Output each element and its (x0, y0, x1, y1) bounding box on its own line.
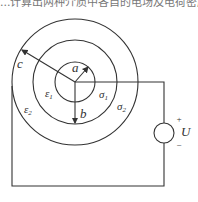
label-minus: − (176, 140, 182, 150)
voltage-source-icon (154, 123, 174, 143)
label-sigma2: σ2 (117, 100, 126, 114)
label-eps1: ε1 (45, 87, 53, 101)
label-c: c (17, 56, 23, 71)
lower-wire (12, 86, 164, 186)
radius-c-arrow (22, 50, 75, 82)
label-plus: + (176, 114, 182, 124)
coaxial-sphere-diagram: a b c ε1 ε2 σ1 σ2 + U − (0, 0, 198, 202)
label-eps2: ε2 (24, 103, 32, 117)
label-a: a (72, 60, 79, 75)
label-b: b (80, 106, 87, 121)
label-sigma1: σ1 (99, 88, 108, 102)
label-U: U (181, 124, 192, 139)
